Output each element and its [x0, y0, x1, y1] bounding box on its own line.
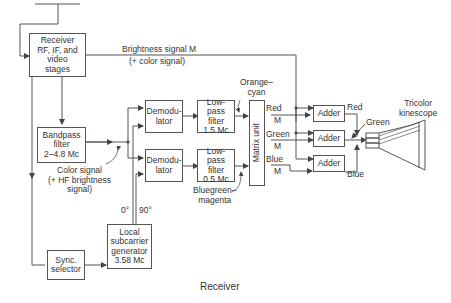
receiver-rf-if-video-block: Receiver RF, IF, and video stages — [29, 33, 86, 77]
matrix-blue-m-label: M — [274, 167, 281, 177]
block-label: Matrix unit — [252, 123, 262, 162]
sync-selector-block: Sync. selector — [47, 250, 85, 280]
adder-green-block: Adder — [313, 130, 345, 147]
block-label: 1.5 Mc — [203, 126, 229, 136]
color-signal-label: Color signal (+ HF brightness signal) — [48, 166, 111, 195]
label-line: magenta — [193, 196, 236, 206]
block-label: 2–4.8 Mc — [44, 150, 79, 160]
low-pass-filter-2-block: Low-pass filter 0.5 Mc — [197, 149, 235, 182]
bandpass-filter-block: Bandpass filter 2–4.8 Mc — [37, 127, 86, 163]
block-label: Adder — [318, 109, 341, 119]
demodulator-1-block: Demodu- lator — [145, 100, 183, 133]
label-line: kinescope — [399, 109, 437, 119]
tricolor-kinescope-label: Tricolor kinescope — [399, 99, 437, 118]
adder-blue-block: Adder — [313, 155, 345, 172]
phase-90-label: 90° — [139, 206, 152, 216]
matrix-blue-label: Blue — [266, 155, 283, 165]
orange-cyan-label: Orange– cyan — [240, 78, 273, 97]
block-label: Low-pass — [198, 98, 234, 117]
low-pass-filter-1-block: Low-pass filter 1.5 Mc — [197, 100, 235, 133]
demodulator-2-block: Demodu- lator — [145, 149, 183, 182]
adder-red-block: Adder — [313, 105, 345, 122]
matrix-green-m-label: M — [274, 142, 281, 152]
block-label: 3.58 Mc — [114, 256, 144, 266]
local-subcarrier-generator-block: Local subcarrier generator 3.58 Mc — [107, 224, 152, 269]
block-label: lator — [156, 166, 173, 176]
output-green-label: Green — [366, 118, 390, 128]
output-blue-label: Blue — [347, 170, 364, 180]
bluegreen-magenta-label: Bluegreen– magenta — [193, 186, 236, 205]
label-line: cyan — [240, 88, 273, 98]
block-label: Low-pass — [198, 147, 234, 166]
phase-0-label: 0° — [121, 206, 129, 216]
matrix-red-label: Red — [266, 104, 282, 114]
output-red-label: Red — [347, 103, 363, 113]
label-line: signal) — [48, 185, 111, 195]
figure-caption: Receiver — [200, 281, 239, 292]
block-label: lator — [156, 117, 173, 127]
matrix-unit-block: Matrix unit — [249, 100, 265, 186]
matrix-green-label: Green — [266, 130, 290, 140]
block-label: selector — [51, 265, 81, 275]
matrix-red-m-label: M — [274, 116, 281, 126]
block-label: stages — [45, 65, 70, 75]
block-label: Adder — [318, 159, 341, 169]
brightness-signal-sublabel: (+ color signal) — [129, 57, 185, 67]
brightness-signal-label: Brightness signal M — [122, 45, 196, 55]
block-label: Adder — [318, 134, 341, 144]
block-label: 0.5 Mc — [203, 175, 229, 185]
